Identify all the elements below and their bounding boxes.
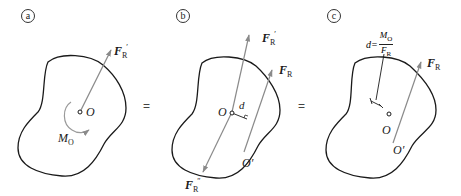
distance-leader-c [376,54,384,100]
dimension-line-c [371,101,381,106]
point-O-a [78,110,82,114]
rigid-body-outline-a [18,56,126,177]
label-FR-double-prime-b: FR″ [185,179,201,194]
formula-denominator: FR [381,45,391,59]
equals-sign-1: = [143,99,150,113]
point-O-c [387,112,391,116]
force-arrow-FR-double-prime-b [203,112,232,172]
panel-label-b: b [176,9,190,23]
rigid-body-outline-c [326,57,436,178]
label-FR-prime-a: FR′ [114,45,128,60]
label-O-prime-c: O′ [393,144,404,156]
label-MO-a: MO [58,132,74,147]
label-FR-b: FR [279,64,292,79]
equals-sign-2: = [298,99,305,113]
label-O-a: O [86,106,95,118]
force-arrow-FR-c [393,62,421,143]
label-FR-c: FR [427,57,440,72]
dimension-tick-right-c [379,104,383,108]
label-FR-prime-b: FR′ [262,32,276,47]
formula-lhs: d= [366,39,378,50]
label-O-c: O [382,124,391,136]
label-d-b: d [239,100,245,111]
right-angle-mark-b [244,115,248,118]
panel-label-c: c [327,9,341,23]
label-O-b: O [218,106,227,118]
force-arrow-FR-b [244,70,272,152]
formula-numerator: MO [379,30,394,45]
force-arrow-FR-prime-a [80,50,111,112]
point-O-b [230,111,234,115]
formula-d-c: d= MO FR [366,30,393,59]
panel-label-a: a [21,9,35,23]
label-O-prime-b: O′ [242,157,253,169]
